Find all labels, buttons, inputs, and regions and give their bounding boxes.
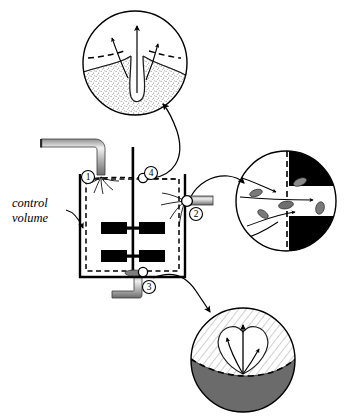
agitator-shaft	[132, 147, 135, 278]
control-volume-label-line1: control	[12, 196, 48, 210]
inlet-pipe	[40, 139, 105, 175]
inlet-pipe-end-cap	[40, 139, 42, 148]
callout-1: 1	[82, 171, 95, 184]
callout-3-label: 3	[147, 282, 152, 292]
callout-1-label: 1	[86, 172, 91, 182]
callout-3: 3	[143, 281, 156, 294]
callout-2-label: 2	[194, 209, 199, 219]
inlet-pipe-body	[41, 139, 105, 175]
impeller-lower-hub-bar	[101, 255, 165, 258]
callout-2: 2	[190, 208, 203, 221]
station-node-3	[138, 267, 147, 276]
impeller-upper-hub-bar	[101, 227, 165, 230]
callout-4: 4	[145, 167, 158, 180]
schematic-canvas: 1 2 3 4 control volume	[0, 0, 347, 417]
figure-root: 1 2 3 4 control volume	[0, 0, 347, 417]
control-volume-label: control volume	[12, 196, 83, 228]
inset-outlet-port	[236, 151, 336, 251]
inset-free-surface-vortex	[83, 11, 187, 115]
leader-callout-3-to-bottom-inset	[153, 274, 210, 312]
leader-callout-4-to-top-inset	[153, 104, 180, 178]
callout-4-label: 4	[149, 168, 154, 178]
inset-floor-drain-plume	[191, 308, 295, 412]
inset-right-wall-lower	[289, 216, 336, 251]
outlet-spray	[161, 193, 185, 227]
station-node-2	[182, 196, 193, 207]
control-volume-label-line2: volume	[12, 211, 49, 225]
